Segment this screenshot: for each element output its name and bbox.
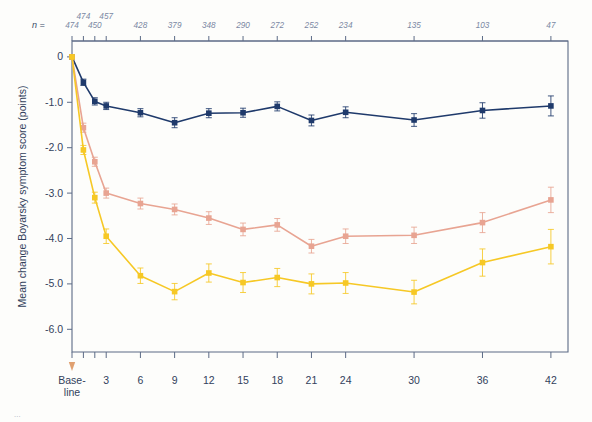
data-point-marker <box>103 233 109 239</box>
data-point-marker <box>309 281 315 287</box>
n-value-label: 450 <box>88 21 102 30</box>
data-point-marker <box>206 110 212 116</box>
n-value-label: 474 <box>65 21 79 30</box>
data-point-marker <box>69 54 75 60</box>
data-point-marker <box>172 120 178 126</box>
figure-root: 0-1.0-2.0-3.0-4.0-5.0-6.0Mean change Boy… <box>0 0 592 422</box>
data-point-marker <box>480 220 486 226</box>
n-value-label: 474 <box>77 12 91 21</box>
line-chart: 0-1.0-2.0-3.0-4.0-5.0-6.0Mean change Boy… <box>0 0 592 400</box>
plot-frame <box>72 41 568 352</box>
data-point-marker <box>92 99 98 105</box>
series-line <box>72 57 551 292</box>
x-tick-label-baseline-2: line <box>64 386 81 398</box>
n-value-label: 234 <box>338 21 353 30</box>
data-point-marker <box>206 215 212 221</box>
n-value-label: 290 <box>235 21 250 30</box>
data-point-marker <box>172 289 178 295</box>
baseline-arrow-icon <box>69 362 75 371</box>
data-point-marker <box>411 289 417 295</box>
data-point-marker <box>480 108 486 114</box>
data-point-marker <box>480 260 486 266</box>
data-point-marker <box>309 118 315 124</box>
data-point-marker <box>240 110 246 116</box>
n-value-label: 428 <box>134 21 148 30</box>
data-point-marker <box>138 110 144 116</box>
y-tick-label: -4.0 <box>45 232 63 244</box>
n-value-label: 379 <box>168 21 182 30</box>
data-point-marker <box>103 103 109 109</box>
series-line <box>72 57 551 246</box>
data-point-marker <box>92 195 98 201</box>
x-tick-label: 42 <box>545 374 557 386</box>
data-point-marker <box>411 117 417 123</box>
data-point-marker <box>172 207 178 213</box>
x-tick-label: 36 <box>477 374 489 386</box>
data-point-marker <box>138 201 144 207</box>
data-point-marker <box>274 275 280 281</box>
data-point-marker <box>548 197 554 203</box>
x-tick-label: 3 <box>103 374 109 386</box>
series-navy <box>69 54 554 128</box>
y-tick-label: -5.0 <box>45 277 63 289</box>
data-point-marker <box>274 222 280 228</box>
data-point-marker <box>240 280 246 286</box>
x-tick-label: 18 <box>271 374 283 386</box>
data-point-marker <box>103 190 109 196</box>
data-point-marker <box>548 244 554 250</box>
data-point-marker <box>138 273 144 279</box>
n-value-label: 457 <box>99 12 113 21</box>
n-value-label: 272 <box>269 21 284 30</box>
n-value-label: 103 <box>476 21 490 30</box>
y-tick-label: -1.0 <box>45 96 63 108</box>
data-point-marker <box>240 227 246 233</box>
n-axis-header: n = <box>32 20 45 30</box>
y-tick-label: 0 <box>57 50 63 62</box>
data-point-marker <box>343 109 349 115</box>
data-point-marker <box>81 147 87 153</box>
x-tick-label: 21 <box>306 374 318 386</box>
n-value-label: 252 <box>304 21 319 30</box>
x-tick-label: 30 <box>408 374 420 386</box>
data-point-marker <box>274 104 280 110</box>
x-tick-label-baseline: Base- <box>58 374 86 386</box>
data-point-marker <box>343 233 349 239</box>
x-tick-label: 6 <box>137 374 143 386</box>
data-point-marker <box>81 80 87 86</box>
series-gold <box>69 54 554 304</box>
data-point-marker <box>206 270 212 276</box>
x-tick-label: 9 <box>172 374 178 386</box>
x-tick-label: 12 <box>203 374 215 386</box>
data-point-marker <box>548 103 554 109</box>
n-value-label: 135 <box>407 21 421 30</box>
data-point-marker <box>343 280 349 286</box>
series-salmon <box>69 54 554 253</box>
x-tick-label: 15 <box>237 374 249 386</box>
x-tick-label: 24 <box>340 374 352 386</box>
y-tick-label: -2.0 <box>45 141 63 153</box>
y-tick-label: -3.0 <box>45 187 63 199</box>
y-tick-label: -6.0 <box>45 323 63 335</box>
n-value-label: 348 <box>202 21 216 30</box>
figure-caption: ... <box>14 410 21 421</box>
series-line <box>72 57 551 123</box>
data-point-marker <box>309 243 315 249</box>
n-value-label: 47 <box>546 21 556 30</box>
y-axis-title: Mean change Boyarsky symptom score (poin… <box>16 86 28 308</box>
data-point-marker <box>92 159 98 165</box>
data-point-marker <box>411 233 417 239</box>
